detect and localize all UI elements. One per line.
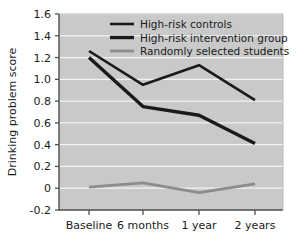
legend-label-2: Randomly selected students: [140, 45, 289, 57]
y-tick-label: 0.2: [34, 160, 52, 173]
legend-label-0: High-risk controls: [140, 18, 232, 30]
y-tick-label: 0: [44, 182, 51, 195]
y-tick-label: 1.4: [34, 30, 52, 43]
y-tick-label: 1.2: [34, 52, 52, 65]
x-tick-label: 2 years: [235, 219, 276, 232]
chart-figure: -0.200.20.40.60.81.01.21.41.6 Baseline6 …: [0, 0, 306, 243]
y-tick-label: 1.0: [34, 73, 52, 86]
x-tick-label: 1 year: [181, 219, 217, 232]
y-tick-label: -0.2: [30, 204, 51, 217]
x-tick-label: Baseline: [66, 219, 113, 232]
y-tick-label: 0.4: [34, 139, 52, 152]
x-tick-label: 6 months: [117, 219, 169, 232]
y-tick-label: 0.8: [34, 95, 52, 108]
line-chart: -0.200.20.40.60.81.01.21.41.6 Baseline6 …: [0, 0, 306, 243]
y-tick-label: 0.6: [34, 117, 52, 130]
legend-label-1: High-risk intervention group: [140, 32, 288, 44]
y-tick-label: 1.6: [34, 8, 52, 21]
y-axis-ticks: -0.200.20.40.60.81.01.21.41.6: [30, 8, 59, 217]
y-axis-title: Drinking problem score: [6, 48, 19, 177]
x-axis-ticks: Baseline6 months1 year2 years: [66, 210, 276, 232]
